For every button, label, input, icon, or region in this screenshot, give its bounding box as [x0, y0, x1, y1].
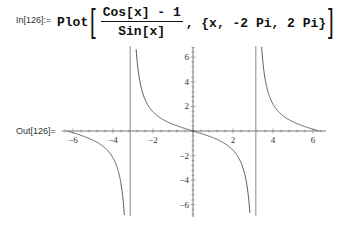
- y-tick-label: −4: [179, 175, 189, 185]
- x-tick-label: −6: [68, 135, 78, 145]
- plot-output[interactable]: −6−4−2246 642−2−4−6: [0, 0, 341, 230]
- x-tick-label: −2: [148, 135, 158, 145]
- y-tick-label: 4: [185, 77, 190, 87]
- x-tick-label: −4: [108, 135, 118, 145]
- x-axis-tick-labels: −6−4−2246: [68, 135, 316, 145]
- x-tick-label: 2: [231, 135, 236, 145]
- x-tick-label: 6: [311, 135, 316, 145]
- y-tick-label: 6: [185, 52, 190, 62]
- x-tick-label: 4: [271, 135, 276, 145]
- y-tick-label: −2: [179, 151, 189, 161]
- y-tick-label: 2: [185, 101, 190, 111]
- y-tick-label: −6: [179, 200, 189, 210]
